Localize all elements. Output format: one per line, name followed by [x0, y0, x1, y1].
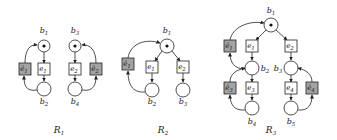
arc-e2bar-b3 — [82, 45, 96, 63]
condition-label: b1 — [163, 26, 172, 36]
condition-circle — [284, 61, 298, 75]
condition-label: b4 — [248, 117, 257, 127]
event-e2: e2 — [177, 61, 189, 73]
event-e1bar: ē1 — [19, 63, 31, 75]
petri-net-diagram: e1ē1e2ē2b1b2b3b4R1ē1e1e2b1b2b3R2ē1e1e2ē3… — [0, 0, 337, 140]
event-e2bar: ē2 — [90, 63, 102, 75]
condition-b1: b1 — [38, 26, 50, 52]
token-dot-icon — [73, 44, 76, 47]
condition-b1: b1 — [160, 26, 174, 53]
arc-b2-e1bar — [128, 71, 145, 92]
condition-label: b1 — [40, 26, 49, 36]
arc-e1bar-b1 — [128, 41, 160, 58]
event-e4: e4 — [285, 82, 297, 94]
arc-b1-e1 — [256, 30, 266, 40]
arc-b4-e2bar — [82, 76, 96, 90]
event-e3: e3 — [246, 82, 258, 94]
condition-label: b2 — [40, 97, 49, 107]
condition-circle — [68, 82, 82, 96]
event-e2: e2 — [69, 63, 81, 75]
condition-label: b2 — [261, 64, 270, 74]
condition-circle — [145, 83, 159, 97]
arc-e1bar-b1 — [25, 45, 37, 63]
condition-circle — [37, 82, 51, 96]
arc-e4bar-b3 — [298, 68, 312, 82]
event-e4bar: ē4 — [306, 82, 318, 94]
net-r3-arcs — [230, 22, 312, 110]
arc-b4-e3bar — [230, 95, 245, 110]
arc-b1-e1 — [155, 51, 162, 61]
event-e1bar: ē1 — [122, 58, 134, 70]
event-e1: e1 — [38, 63, 50, 75]
condition-b3: b3 — [69, 26, 81, 52]
condition-b5: b5 — [284, 101, 298, 127]
arc-b1-e2 — [172, 51, 180, 61]
net-caption: R3 — [265, 125, 277, 136]
condition-circle — [245, 101, 259, 115]
arc-b2-e1bar — [24, 76, 37, 90]
condition-b4: b4 — [245, 101, 259, 127]
net-r1: e1ē1e2ē2b1b2b3b4R1 — [19, 26, 102, 136]
event-e1: e1 — [246, 40, 258, 52]
net-r2: ē1e1e2b1b2b3R2 — [122, 26, 190, 136]
condition-label: b3 — [71, 26, 80, 36]
condition-b3: b3 — [176, 83, 190, 107]
event-e1bar: ē1 — [224, 40, 236, 52]
arc-b1-e2 — [276, 30, 287, 40]
arc-e3bar-b2 — [230, 68, 245, 82]
arc-b5-e4bar — [298, 95, 312, 110]
net-r1-arcs — [24, 45, 96, 90]
net-caption: R1 — [53, 125, 64, 136]
condition-b1: b1 — [264, 6, 278, 32]
net-r3: ē1e1e2ē3e3e4ē4b1b2b3b4b5R3 — [224, 6, 318, 136]
nodes-layer: e1ē1e2ē2b1b2b3b4R1ē1e1e2b1b2b3R2ē1e1e2ē3… — [19, 6, 318, 136]
token-dot-icon — [165, 44, 168, 47]
net-caption: R2 — [157, 125, 169, 136]
condition-label: b4 — [71, 97, 80, 107]
event-e1: e1 — [146, 61, 158, 73]
condition-label: b1 — [267, 6, 276, 16]
condition-label: b5 — [287, 117, 296, 127]
condition-circle — [245, 61, 259, 75]
token-dot-icon — [42, 44, 45, 47]
event-e2: e2 — [285, 40, 297, 52]
condition-label: b3 — [274, 64, 283, 74]
event-e3bar: ē3 — [224, 82, 236, 94]
condition-b2: b2 — [145, 83, 159, 107]
arc-b2-e1bar — [230, 53, 245, 69]
condition-circle — [176, 83, 190, 97]
condition-b2: b2 — [245, 61, 270, 75]
token-dot-icon — [269, 23, 272, 26]
condition-b4: b4 — [68, 82, 82, 107]
condition-b3: b3 — [274, 61, 298, 75]
condition-b2: b2 — [37, 82, 51, 107]
condition-label: b3 — [179, 97, 188, 107]
diagram-svg: e1ē1e2ē2b1b2b3b4R1ē1e1e2b1b2b3R2ē1e1e2ē3… — [0, 0, 337, 140]
condition-label: b2 — [148, 97, 157, 107]
condition-circle — [284, 101, 298, 115]
